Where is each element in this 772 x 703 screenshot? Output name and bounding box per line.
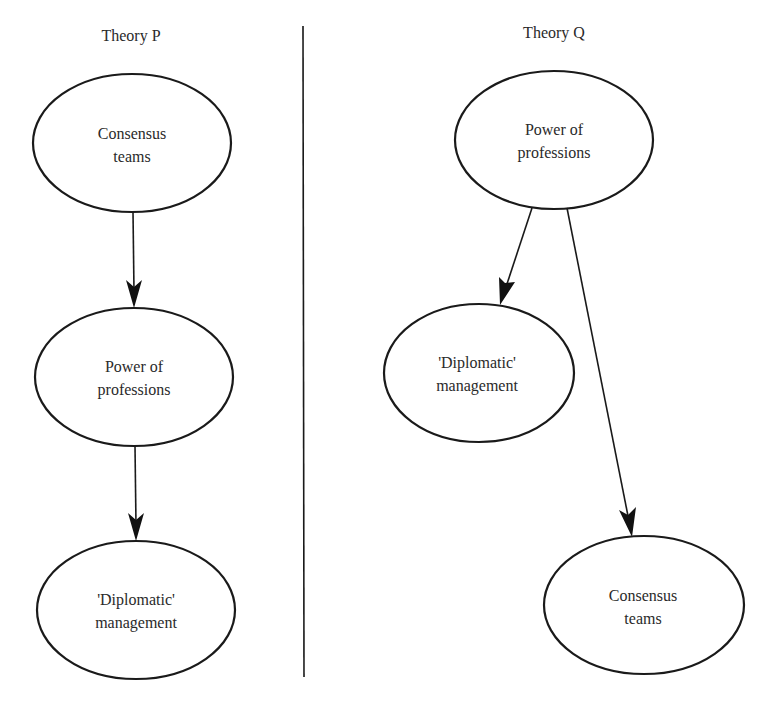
node-label-line-1: 'Diplomatic' [97, 591, 175, 609]
edge-q-power-to-consensus [567, 208, 636, 537]
panel-title-theory-q: Theory Q [523, 24, 585, 42]
node-ellipse [544, 536, 744, 674]
panel-title-theory-p: Theory P [101, 27, 160, 45]
edge-line [135, 446, 136, 525]
panel-theory-q: Theory Q Power of professions 'Diplomati… [384, 24, 744, 674]
edge-line [505, 208, 532, 290]
node-ellipse [33, 74, 231, 212]
node-p-diplomatic-management: 'Diplomatic' management [37, 541, 235, 679]
node-label-line-2: teams [624, 610, 661, 627]
node-q-diplomatic-management: 'Diplomatic' management [384, 304, 574, 442]
node-p-consensus-teams: Consensus teams [33, 74, 231, 212]
edge-line [133, 212, 134, 292]
edge-p-power-to-diplomatic [128, 446, 144, 541]
node-q-power-of-professions: Power of professions [455, 71, 653, 209]
edge-line [567, 208, 629, 521]
node-label-line-1: Power of [105, 358, 164, 375]
node-ellipse [35, 308, 233, 446]
arrowhead-icon [499, 277, 515, 305]
panel-divider [303, 26, 304, 677]
node-label-line-1: Consensus [98, 125, 166, 142]
node-ellipse [37, 541, 235, 679]
panel-theory-p: Theory P Consensus teams Power of profes… [33, 27, 235, 679]
node-label-line-1: Power of [525, 121, 584, 138]
node-ellipse [384, 304, 574, 442]
node-p-power-of-professions: Power of professions [35, 308, 233, 446]
node-ellipse [455, 71, 653, 209]
node-label-line-2: teams [113, 148, 150, 165]
node-label-line-2: professions [98, 381, 171, 399]
node-label-line-2: management [436, 377, 518, 395]
theory-comparison-diagram: Theory P Consensus teams Power of profes… [0, 0, 772, 703]
node-label-line-2: professions [518, 144, 591, 162]
node-label-line-1: 'Diplomatic' [438, 354, 516, 372]
node-q-consensus-teams: Consensus teams [544, 536, 744, 674]
node-label-line-2: management [95, 614, 177, 632]
edge-p-consensus-to-power [126, 212, 142, 308]
node-label-line-1: Consensus [609, 587, 677, 604]
edge-q-power-to-diplomatic [499, 208, 532, 305]
